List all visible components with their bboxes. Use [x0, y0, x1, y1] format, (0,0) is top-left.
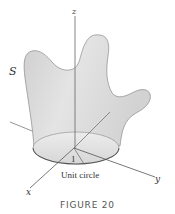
unit-circle-label: Unit circle	[61, 170, 99, 180]
surface-label: S	[9, 65, 17, 78]
surface-s	[24, 35, 150, 148]
y-axis-label: y	[154, 174, 161, 184]
figure-caption: FIGURE 20	[60, 200, 115, 210]
radius-label: 1	[71, 154, 76, 164]
surface-figure: z S 1 y Unit circle x FIGURE 20	[0, 0, 175, 214]
z-axis-label: z	[71, 7, 77, 16]
x-axis-label: x	[26, 187, 31, 197]
